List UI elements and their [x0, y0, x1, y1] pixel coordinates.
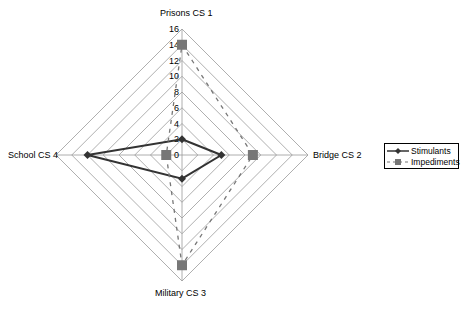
axis-label-bottom: Military CS 3	[155, 288, 206, 298]
tick-label: 12	[169, 56, 179, 66]
tick-label: 0	[174, 150, 179, 160]
tick-label: 6	[174, 103, 179, 113]
axis-label-top: Prisons CS 1	[160, 8, 213, 18]
axis-label-right: Bridge CS 2	[313, 150, 362, 160]
impediments-line-icon	[387, 158, 409, 166]
legend: Stimulants Impediments	[384, 143, 459, 169]
axis-label-left: School CS 4	[8, 150, 58, 160]
impediments-marker	[161, 150, 171, 160]
impediments-marker	[177, 260, 187, 270]
tick-label: 4	[174, 119, 179, 129]
impediments-marker	[248, 150, 258, 160]
tick-label: 16	[169, 24, 179, 34]
legend-label-stimulants: Stimulants	[411, 146, 451, 156]
impediments-marker	[177, 40, 187, 50]
stimulants-line-icon	[387, 147, 409, 155]
legend-item-impediments: Impediments	[387, 156, 460, 167]
legend-label-impediments: Impediments	[411, 157, 460, 167]
legend-item-stimulants: Stimulants	[387, 145, 451, 156]
